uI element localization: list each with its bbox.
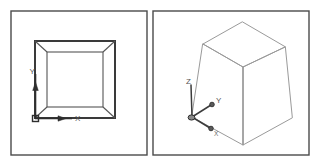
- ucs-y-axis-label-3d: Y: [216, 96, 222, 105]
- figure-canvas: Y X Z Y: [0, 0, 320, 166]
- ucs-z-axis-label-3d: Z: [186, 77, 191, 86]
- right-panel-frame: [153, 11, 309, 155]
- isometric-view-panel: Z Y X: [153, 11, 309, 155]
- top-view-panel: Y X: [11, 11, 147, 155]
- ucs-y-axis-label-2d: Y: [30, 67, 36, 76]
- ucs-y-axis-ball-3d: [210, 102, 215, 107]
- ucs-x-axis-label-2d: X: [75, 114, 81, 123]
- ucs-x-axis-label-3d: X: [214, 130, 219, 137]
- ucs-z-axis-line-3d: [191, 85, 192, 117]
- ucs-origin-marker-3d: [188, 115, 195, 120]
- left-panel-frame: [11, 11, 147, 155]
- ucs-x-axis-ball-3d: [209, 126, 214, 131]
